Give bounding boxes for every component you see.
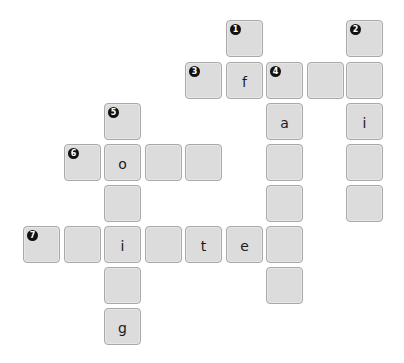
cell-letter: i bbox=[347, 104, 382, 139]
crossword-cell[interactable] bbox=[346, 185, 383, 222]
crossword-cell[interactable]: o bbox=[104, 144, 141, 181]
crossword-cell[interactable] bbox=[266, 185, 303, 222]
crossword-cell[interactable] bbox=[104, 267, 141, 304]
crossword-cell[interactable] bbox=[266, 226, 303, 263]
crossword-cell[interactable] bbox=[145, 144, 182, 181]
crossword-cell[interactable] bbox=[266, 267, 303, 304]
crossword-cell[interactable]: i bbox=[104, 226, 141, 263]
cell-letter: e bbox=[227, 227, 262, 262]
crossword-cell[interactable]: f bbox=[226, 62, 263, 99]
crossword-cell[interactable]: 7 bbox=[23, 226, 60, 263]
crossword-cell[interactable]: 3 bbox=[185, 62, 222, 99]
clue-number-badge: 3 bbox=[189, 66, 200, 77]
crossword-cell[interactable]: g bbox=[104, 308, 141, 345]
crossword-cell[interactable] bbox=[145, 226, 182, 263]
crossword-cell[interactable] bbox=[64, 226, 101, 263]
crossword-cell[interactable]: 2 bbox=[346, 20, 383, 57]
cell-letter: a bbox=[267, 104, 302, 139]
crossword-cell[interactable]: e bbox=[226, 226, 263, 263]
cell-letter: g bbox=[105, 309, 140, 344]
cell-letter: i bbox=[105, 227, 140, 262]
crossword-cell[interactable]: a bbox=[266, 103, 303, 140]
crossword-cell[interactable] bbox=[185, 144, 222, 181]
clue-number-badge: 7 bbox=[27, 230, 38, 241]
clue-number-badge: 1 bbox=[230, 24, 241, 35]
cell-letter: t bbox=[186, 227, 221, 262]
crossword-cell[interactable] bbox=[104, 185, 141, 222]
crossword-cell[interactable] bbox=[307, 62, 344, 99]
crossword-cell[interactable] bbox=[266, 144, 303, 181]
crossword-cell[interactable]: 1 bbox=[226, 20, 263, 57]
clue-number-badge: 2 bbox=[350, 24, 361, 35]
clue-number-badge: 6 bbox=[68, 148, 79, 159]
clue-number-badge: 4 bbox=[270, 66, 281, 77]
crossword-cell[interactable]: 5 bbox=[104, 103, 141, 140]
crossword-cell[interactable]: i bbox=[346, 103, 383, 140]
clue-number-badge: 5 bbox=[108, 107, 119, 118]
cell-letter: o bbox=[105, 145, 140, 180]
crossword-cell[interactable]: 4 bbox=[266, 62, 303, 99]
cell-letter: f bbox=[227, 63, 262, 98]
crossword-cell[interactable]: 6 bbox=[64, 144, 101, 181]
crossword-cell[interactable] bbox=[346, 62, 383, 99]
crossword-cell[interactable] bbox=[346, 144, 383, 181]
crossword-board: 123f45ai6o7iteg bbox=[0, 0, 404, 363]
crossword-cell[interactable]: t bbox=[185, 226, 222, 263]
